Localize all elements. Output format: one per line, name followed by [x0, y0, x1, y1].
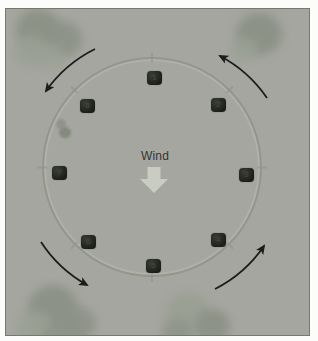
direction-button-label: 6 [86, 238, 90, 246]
direction-button-label: 3 [244, 171, 248, 179]
ring-tick [258, 167, 267, 169]
direction-button-label: 5 [151, 262, 155, 270]
direction-button-label: 7 [57, 169, 61, 177]
cloud-blob [36, 43, 66, 69]
direction-button-6[interactable]: 6 [81, 235, 96, 249]
down-arrow-icon [140, 167, 168, 193]
cloud-blob [194, 309, 230, 336]
direction-button-label: 8 [85, 102, 89, 110]
ring-tick [151, 273, 153, 282]
ring-tick [38, 167, 47, 169]
direction-button-3[interactable]: 3 [239, 168, 254, 182]
ring-tick [151, 53, 153, 62]
direction-button-1[interactable]: 1 [147, 71, 162, 85]
direction-button-label: 1 [152, 74, 156, 82]
wind-board: 1 2 3 4 5 6 7 8 Wind [5, 8, 310, 336]
rotation-arrow-bottom-right [215, 246, 264, 289]
cloud-blob [230, 37, 258, 61]
direction-button-5[interactable]: 5 [146, 259, 161, 273]
direction-button-4[interactable]: 4 [211, 233, 226, 247]
screenshot-frame: 1 2 3 4 5 6 7 8 Wind [0, 0, 318, 341]
wind-direction-arrow [136, 164, 176, 196]
direction-button-label: 4 [216, 236, 220, 244]
direction-button-2[interactable]: 2 [211, 98, 226, 112]
direction-button-label: 2 [216, 101, 220, 109]
direction-button-8[interactable]: 8 [80, 99, 95, 113]
wind-label: Wind [125, 149, 185, 163]
direction-button-7[interactable]: 7 [52, 166, 67, 180]
